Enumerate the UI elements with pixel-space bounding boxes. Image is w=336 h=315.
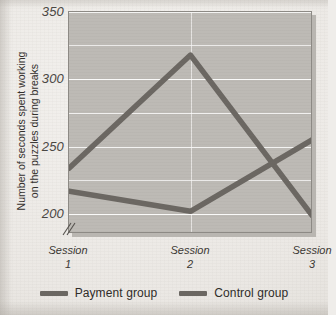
plot-area	[68, 11, 312, 233]
series-payment-group	[69, 55, 312, 215]
x-tick-word-2: Session	[170, 244, 209, 256]
x-tick-word-3: Session	[292, 244, 331, 256]
legend-label-payment-group: Payment group	[75, 286, 158, 300]
gridline-300	[69, 79, 311, 80]
x-tick-number-2: 2	[155, 257, 225, 271]
axis-break-icon	[60, 220, 78, 238]
x-tick-session-3: Session 3	[277, 243, 336, 271]
page-edge-shading-bottom	[0, 301, 328, 315]
x-tick-session-1: Session 1	[33, 243, 103, 271]
gridline-250	[69, 147, 311, 148]
gridline-275	[69, 113, 311, 114]
x-tick-number-3: 3	[277, 257, 336, 271]
gridline-225	[69, 180, 311, 181]
gridline-325	[69, 45, 311, 46]
page-edge-shading-top	[0, 0, 328, 8]
x-tick-session-2: Session 2	[155, 243, 225, 271]
y-axis-title-line-2: on the puzzles during breaks	[28, 26, 41, 236]
y-axis-title: Number of seconds spent working on the p…	[15, 26, 41, 236]
legend-item-payment-group: Payment group	[40, 286, 158, 300]
data-lines	[69, 12, 312, 233]
legend-swatch-control-group	[179, 291, 207, 296]
x-tick-word-1: Session	[48, 244, 87, 256]
series-control-group	[69, 140, 312, 211]
legend-item-control-group: Control group	[179, 286, 288, 300]
y-axis-title-line-1: Number of seconds spent working	[15, 26, 28, 236]
x-tick-number-1: 1	[33, 257, 103, 271]
gridline-200	[69, 214, 311, 215]
chart-legend: Payment group Control group	[0, 286, 328, 300]
legend-label-control-group: Control group	[214, 286, 288, 300]
legend-swatch-payment-group	[40, 291, 68, 296]
page-edge-shading-left	[0, 0, 12, 315]
gridline-350	[69, 12, 311, 13]
gridline-session-2	[191, 12, 192, 232]
